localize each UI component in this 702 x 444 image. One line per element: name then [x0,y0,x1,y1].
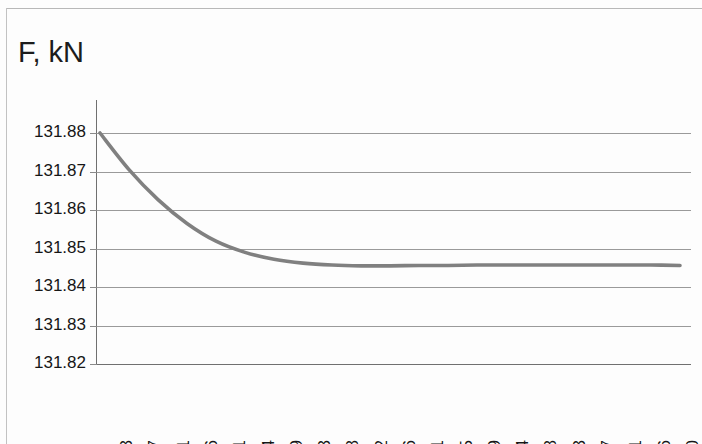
x-axis-tick-label: 111.83 [316,440,334,444]
x-axis-tick-label: 35.61 [175,440,193,444]
chart-page: F, kN 131.88131.87131.86131.85131.84131.… [0,0,702,444]
page-border-top [6,8,702,9]
gridline [97,287,691,288]
y-axis-tick [90,364,97,365]
x-axis-tick-label: 172.81 [429,440,447,444]
x-axis-tick-label: 20.37 [146,440,164,444]
y-axis-tick-label: 131.85 [34,238,86,258]
x-axis-tick-label: 96.59 [288,440,306,444]
x-axis-tick-label: 5.13 [118,440,136,444]
x-axis-tick-label: 50.86 [203,440,221,444]
y-axis-tick [90,326,97,327]
y-axis-tick [90,249,97,250]
x-axis-tick-label: 294.76 [656,440,674,444]
x-axis-tick-label: 157.56 [401,440,419,444]
y-axis-tick-label: 131.84 [34,276,86,296]
x-axis-tick-label: 142.32 [373,440,391,444]
x-axis-tick-label: 264.27 [599,440,617,444]
y-axis-tick [90,287,97,288]
x-axis-tick-label: 188.05 [458,440,476,444]
x-axis-tick-label: 127.08 [344,440,362,444]
y-axis-tick-label: 131.86 [34,199,86,219]
gridline [97,172,691,173]
x-axis-tick-label: 249.03 [571,440,589,444]
y-axis-tick-label: 131.82 [34,353,86,373]
x-axis-tick-label: 81.34 [260,440,278,444]
x-axis-tick-label: 218.54 [514,440,532,444]
x-axis-tick-label: 310 [684,440,702,444]
x-axis-labels: 5.1320.3735.6150.8666.181.3496.59111.831… [0,372,702,444]
x-axis-tick-label: 66.1 [231,440,249,444]
x-axis-line [96,364,691,365]
gridline [97,249,691,250]
x-axis-tick-label: 279.51 [627,440,645,444]
gridline [97,210,691,211]
y-axis-tick-label: 131.83 [34,315,86,335]
y-axis-tick [90,172,97,173]
gridline [97,326,691,327]
x-axis-tick-label: 233.78 [542,440,560,444]
y-axis-tick-label: 131.88 [34,122,86,142]
y-axis-tick [90,210,97,211]
x-axis-tick-label: 203.29 [486,440,504,444]
gridline [97,133,691,134]
y-axis-tick-label: 131.87 [34,161,86,181]
y-axis-tick [90,133,97,134]
plot-area [97,100,691,364]
